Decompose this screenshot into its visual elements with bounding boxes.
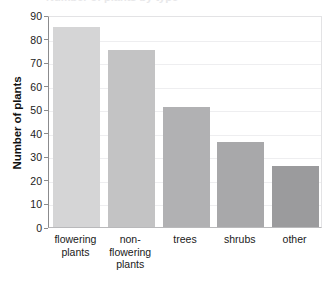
x-axis-label-line: plants: [48, 246, 103, 259]
x-axis-label-line: flowering: [48, 233, 103, 246]
x-axis-label: floweringplants: [48, 233, 103, 258]
x-axis-label: trees: [158, 233, 213, 246]
y-axis-tick-label: 90: [30, 10, 42, 22]
y-axis-tick: 10: [30, 198, 48, 210]
chart-title-cropped: Number of plants by type: [0, 0, 330, 7]
y-axis-tick: 20: [30, 175, 48, 187]
x-axis-label-line: non-: [103, 233, 158, 246]
y-axis-tick: 70: [30, 57, 48, 69]
bar: [163, 107, 210, 227]
y-axis-tick: 90: [30, 10, 48, 22]
bar-chart-figure: Number of plants by type Number of plant…: [0, 0, 330, 286]
y-axis-tick: 50: [30, 104, 48, 116]
y-axis-tick: 30: [30, 151, 48, 163]
y-axis-tick: 80: [30, 34, 48, 46]
x-axis-label-line: plants: [103, 258, 158, 271]
x-axis-label: shrubs: [212, 233, 267, 246]
bar: [217, 142, 264, 227]
x-axis-label-group: floweringplantsnon-floweringplantstreess…: [48, 233, 322, 283]
y-axis-tick-label: 10: [30, 198, 42, 210]
y-axis-tick-group: 9080706050403020100: [0, 16, 48, 228]
y-axis-tick-label: 30: [30, 151, 42, 163]
y-axis-tick-label: 50: [30, 104, 42, 116]
x-axis-label-line: flowering: [103, 246, 158, 259]
x-axis-label-line: trees: [158, 233, 213, 246]
y-axis-tick-label: 60: [30, 81, 42, 93]
x-axis-label: non-floweringplants: [103, 233, 158, 271]
bar: [108, 50, 155, 227]
y-axis-tick-label: 0: [36, 222, 42, 234]
y-axis-tick-label: 40: [30, 128, 42, 140]
x-axis-label: other: [267, 233, 322, 246]
y-axis-tick-label: 20: [30, 175, 42, 187]
bars-layer: [49, 17, 321, 227]
bar: [53, 27, 100, 227]
y-axis-tick: 0: [36, 222, 48, 234]
plot-area: [48, 16, 322, 228]
y-axis-tick-label: 80: [30, 34, 42, 46]
x-axis-label-line: other: [267, 233, 322, 246]
x-axis-label-line: shrubs: [212, 233, 267, 246]
y-axis-tick: 60: [30, 81, 48, 93]
bar: [272, 166, 319, 227]
chart-title-text: Number of plants by type: [46, 0, 178, 3]
y-axis-tick: 40: [30, 128, 48, 140]
y-axis-tick-label: 70: [30, 57, 42, 69]
